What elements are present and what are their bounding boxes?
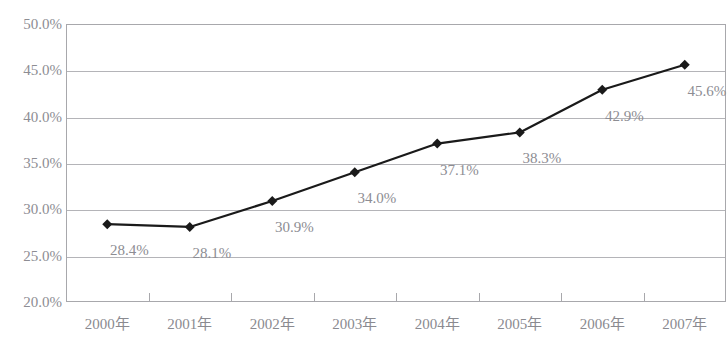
data-point-label: 42.9% [605, 107, 644, 124]
y-axis-tick-label: 45.0% [0, 62, 62, 79]
y-axis-tick-label: 25.0% [0, 247, 62, 264]
x-axis-tick-label: 2005年 [497, 312, 542, 333]
x-axis-tick-label: 2004年 [415, 312, 460, 333]
gridline [67, 257, 725, 258]
x-axis-tick-label: 2002年 [250, 312, 295, 333]
y-axis-tick-label: 40.0% [0, 108, 62, 125]
x-axis-tick [479, 293, 480, 302]
gridline [67, 210, 725, 211]
y-axis-tick-label: 20.0% [0, 294, 62, 311]
y-axis-tick-label: 30.0% [0, 201, 62, 218]
x-axis-tick [231, 293, 232, 302]
y-axis-tick-label: 35.0% [0, 155, 62, 172]
x-axis: 2000年2001年2002年2003年2004年2005年2006年2007年 [66, 312, 726, 342]
data-point-label: 38.3% [522, 150, 561, 167]
x-axis-tick-label: 2003年 [332, 312, 377, 333]
y-axis: 50.0%45.0%40.0%35.0%30.0%25.0%20.0% [0, 0, 62, 362]
data-point-label: 28.4% [110, 242, 149, 259]
x-axis-tick [561, 293, 562, 302]
plot-area [66, 24, 726, 302]
x-axis-tick [644, 293, 645, 302]
data-point-label: 45.6% [687, 82, 726, 99]
x-axis-tick-label: 2001年 [167, 312, 212, 333]
x-axis-tick-label: 2007年 [662, 312, 707, 333]
x-axis-tick [396, 293, 397, 302]
line-chart: 50.0%45.0%40.0%35.0%30.0%25.0%20.0% 2000… [0, 0, 728, 362]
x-axis-tick-label: 2000年 [85, 312, 130, 333]
data-point-label: 28.1% [192, 244, 231, 261]
gridline [67, 71, 725, 72]
data-point-label: 30.9% [275, 218, 314, 235]
x-axis-tick [149, 293, 150, 302]
y-axis-tick-label: 50.0% [0, 16, 62, 33]
data-point-label: 37.1% [440, 161, 479, 178]
data-point-label: 34.0% [357, 190, 396, 207]
x-axis-tick [314, 293, 315, 302]
gridline [67, 164, 725, 165]
chart-title-remnant [290, 0, 540, 5]
x-axis-ticks [66, 293, 726, 303]
x-axis-tick-label: 2006年 [580, 312, 625, 333]
